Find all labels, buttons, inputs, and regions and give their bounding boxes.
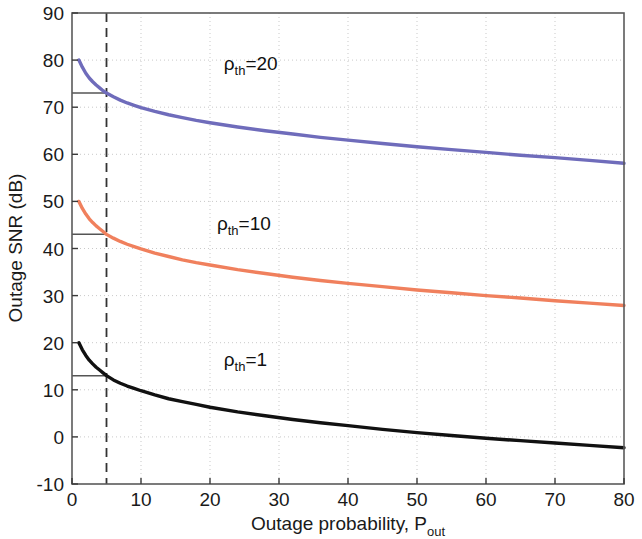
y-tick-label: 10 xyxy=(43,380,64,401)
x-tick-label: 80 xyxy=(613,489,634,510)
y-tick-label: 0 xyxy=(53,427,64,448)
y-tick-label: -10 xyxy=(37,474,64,495)
y-tick-label: 40 xyxy=(43,239,64,260)
y-tick-label: 30 xyxy=(43,286,64,307)
y-axis-label-text: Outage SNR (dB) xyxy=(5,174,26,323)
y-tick-label: 90 xyxy=(43,3,64,24)
y-tick-label: 50 xyxy=(43,191,64,212)
y-axis-label: Outage SNR (dB) xyxy=(5,174,26,323)
x-tick-label: 30 xyxy=(268,489,289,510)
x-tick-label: 40 xyxy=(337,489,358,510)
outage-snr-chart: 01020304050607080-100102030405060708090 … xyxy=(0,0,642,539)
x-tick-label: 70 xyxy=(544,489,565,510)
x-tick-label: 0 xyxy=(67,489,78,510)
x-tick-label: 60 xyxy=(475,489,496,510)
y-tick-label: 20 xyxy=(43,333,64,354)
y-tick-label: 70 xyxy=(43,97,64,118)
chart-background xyxy=(0,0,642,539)
y-tick-label: 80 xyxy=(43,50,64,71)
chart-figure: 01020304050607080-100102030405060708090 … xyxy=(0,0,642,539)
x-tick-label: 20 xyxy=(199,489,220,510)
x-axis-label-text: Outage probability, P xyxy=(251,513,427,534)
x-tick-label: 10 xyxy=(130,489,151,510)
x-axis-label-subscript: out xyxy=(427,524,445,539)
y-tick-label: 60 xyxy=(43,144,64,165)
x-tick-label: 50 xyxy=(406,489,427,510)
svg-text:Outage SNR (dB): Outage SNR (dB) xyxy=(5,174,26,323)
